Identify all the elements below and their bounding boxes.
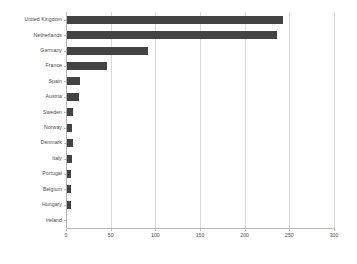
bar-rows <box>66 12 334 228</box>
y-axis-tick-label-row: Belgium <box>0 182 62 197</box>
y-axis-tick-label-row: Italy <box>0 151 62 166</box>
y-axis-label-spain: Spain <box>48 79 62 84</box>
plot-area <box>66 12 334 228</box>
x-tick-label-50: 50 <box>108 233 114 238</box>
y-axis-label-italy: Italy <box>52 156 62 161</box>
y-axis-label-norway: Norway <box>44 125 62 130</box>
x-tick-label-150: 150 <box>196 233 205 238</box>
bar-row <box>66 197 334 212</box>
x-tick-mark-150 <box>200 228 201 231</box>
bar-row <box>66 89 334 104</box>
y-tick-mark <box>64 35 67 36</box>
bar-germany[interactable] <box>66 47 148 55</box>
y-axis-label-belgium: Belgium <box>43 187 62 192</box>
y-axis-tick-label-row: Ireland <box>0 212 62 227</box>
y-tick-mark <box>64 159 67 160</box>
y-axis-label-hungary: Hungary <box>42 202 62 207</box>
bar-sweden[interactable] <box>66 108 73 116</box>
y-axis-tick-label-row: Portugal <box>0 166 62 181</box>
y-axis-label-netherlands: Netherlands <box>33 33 62 38</box>
x-tick-mark-0 <box>66 228 67 231</box>
bar-row <box>66 135 334 150</box>
bar-row <box>66 212 334 227</box>
bar-row <box>66 166 334 181</box>
y-axis-label-portugal: Portugal <box>42 171 62 176</box>
y-tick-mark <box>64 189 67 190</box>
x-tick-label-250: 250 <box>285 233 294 238</box>
bar-row <box>66 151 334 166</box>
y-axis-tick-label-row: Spain <box>0 74 62 89</box>
bar-chart: United KingdomNetherlandsGermanyFranceSp… <box>0 0 357 264</box>
bar-united-kingdom[interactable] <box>66 16 283 24</box>
y-axis-tick-label-row: Austria <box>0 89 62 104</box>
y-axis-tick-label-row: Norway <box>0 120 62 135</box>
x-tick-label-100: 100 <box>151 233 160 238</box>
bar-row <box>66 74 334 89</box>
y-tick-mark <box>64 66 67 67</box>
y-axis-label-united-kingdom: United Kingdom <box>24 17 62 22</box>
y-axis-label-austria: Austria <box>46 94 63 99</box>
bar-row <box>66 58 334 73</box>
y-tick-mark <box>64 20 67 21</box>
bar-row <box>66 120 334 135</box>
bar-denmark[interactable] <box>66 139 73 147</box>
y-axis-label-sweden: Sweden <box>43 110 62 115</box>
bar-france[interactable] <box>66 62 107 70</box>
y-axis-tick-label-row: Sweden <box>0 105 62 120</box>
y-tick-mark <box>64 143 67 144</box>
x-tick-label-300: 300 <box>330 233 339 238</box>
bar-row <box>66 43 334 58</box>
x-tick-label-200: 200 <box>240 233 249 238</box>
x-tick-label-0: 0 <box>65 233 68 238</box>
y-tick-mark <box>64 128 67 129</box>
x-tick-mark-250 <box>289 228 290 231</box>
x-tick-mark-50 <box>111 228 112 231</box>
y-axis-label-germany: Germany <box>40 48 62 53</box>
y-axis-label-denmark: Denmark <box>41 140 62 145</box>
y-tick-mark <box>64 174 67 175</box>
y-axis-category-labels: United KingdomNetherlandsGermanyFranceSp… <box>0 12 62 228</box>
y-tick-mark <box>64 112 67 113</box>
y-axis-tick-label-row: United Kingdom <box>0 12 62 27</box>
bar-row <box>66 12 334 27</box>
y-axis-label-france: France <box>46 63 62 68</box>
y-axis-label-ireland: Ireland <box>46 218 62 223</box>
y-tick-mark <box>64 97 67 98</box>
y-axis-tick-label-row: Netherlands <box>0 27 62 42</box>
x-tick-mark-100 <box>155 228 156 231</box>
x-tick-mark-200 <box>245 228 246 231</box>
gridline-300 <box>334 12 335 228</box>
bar-netherlands[interactable] <box>66 31 277 39</box>
bar-row <box>66 182 334 197</box>
bar-row <box>66 105 334 120</box>
y-tick-mark <box>64 220 67 221</box>
bar-austria[interactable] <box>66 93 79 101</box>
y-tick-mark <box>64 81 67 82</box>
y-axis-line <box>66 12 67 228</box>
y-axis-tick-label-row: France <box>0 58 62 73</box>
bar-spain[interactable] <box>66 77 80 85</box>
y-tick-mark <box>64 51 67 52</box>
x-tick-mark-300 <box>334 228 335 231</box>
y-axis-tick-label-row: Denmark <box>0 135 62 150</box>
y-tick-mark <box>64 205 67 206</box>
y-axis-tick-label-row: Germany <box>0 43 62 58</box>
bar-row <box>66 27 334 42</box>
y-axis-tick-label-row: Hungary <box>0 197 62 212</box>
